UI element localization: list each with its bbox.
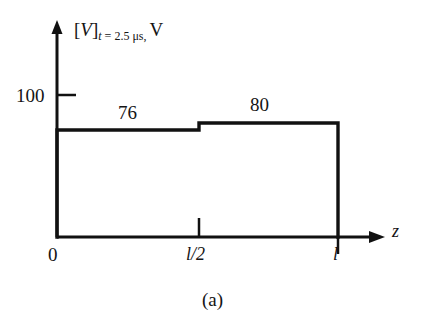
voltage-step-plot [0,0,425,332]
voltage-step-curve [57,123,338,237]
y-axis-label-symbol: V [80,20,92,39]
segment-value-label-80: 80 [250,95,269,114]
figure-container: [V]t = 2.5 μs,V 100 76 80 0 l/2 l z (a) [0,0,425,332]
y-axis-label: [V]t = 2.5 μs,V [74,20,163,39]
x-tick-label-0: 0 [48,245,58,264]
figure-caption: (a) [0,290,425,309]
subscript-equals: = [102,29,115,43]
y-tick-label-100: 100 [16,86,45,105]
x-axis [57,231,385,243]
y-axis-label-subscript: t = 2.5 μs [98,30,143,42]
x-axis-label: z [392,222,399,240]
x-tick-label-l: l [333,245,338,263]
segment-value-label-76: 76 [118,103,137,122]
x-tick-label-l-half: l/2 [186,245,205,263]
subscript-value: 2.5 μs [114,29,143,43]
y-axis-unit-separator: , [144,30,147,42]
y-axis-unit: V [150,20,164,39]
